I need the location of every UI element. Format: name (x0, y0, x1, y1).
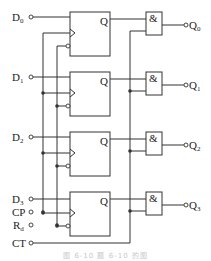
junction-dot (55, 223, 59, 227)
terminal-circle (29, 75, 33, 79)
junction-dot (41, 210, 45, 214)
terminal-circle (29, 197, 33, 201)
terminal-circle (29, 210, 33, 214)
junction-dot (55, 164, 59, 168)
terminal-circle (29, 135, 33, 139)
figure-caption: 图 6-10 题 6-10 的图 (0, 250, 211, 260)
and-symbol-3: & (149, 192, 158, 204)
reset-bubble-icon (66, 104, 70, 108)
junction-dot (128, 149, 132, 153)
terminal-circle (184, 143, 188, 147)
output-label-q1: Q1 (189, 79, 201, 93)
terminal-circle (29, 223, 33, 227)
input-label-cp: CP (12, 206, 25, 218)
reset-bubble-icon (66, 224, 70, 228)
junction-dot (128, 209, 132, 213)
ff-q-label-0: Q (100, 15, 108, 27)
and-symbol-0: & (149, 12, 158, 24)
junction-dot (55, 104, 59, 108)
input-label-ct: CT (12, 237, 26, 249)
ff-q-label-2: Q (100, 135, 108, 147)
junction-dot (41, 91, 45, 95)
circuit-diagram: D0D1D2D3CPRdCTQ&Q0Q&Q1Q&Q2Q&Q3 图 6-10 题 … (0, 0, 211, 261)
junction-dot (128, 89, 132, 93)
input-label-d1: D1 (12, 71, 24, 85)
input-label-d3: D3 (12, 193, 24, 207)
terminal-circle (184, 23, 188, 27)
input-label-rd: Rd (13, 219, 24, 233)
ff-q-label-3: Q (100, 195, 108, 207)
terminal-circle (29, 15, 33, 19)
junction-dot (41, 151, 45, 155)
input-label-d0: D0 (12, 11, 24, 25)
terminal-circle (184, 203, 188, 207)
output-label-q0: Q0 (189, 19, 201, 33)
and-symbol-1: & (149, 72, 158, 84)
reset-bubble-icon (66, 164, 70, 168)
input-label-d2: D2 (12, 131, 24, 145)
ff-q-label-1: Q (100, 75, 108, 87)
terminal-circle (29, 241, 33, 245)
terminal-circle (184, 83, 188, 87)
circuit-schematic: D0D1D2D3CPRdCTQ&Q0Q&Q1Q&Q2Q&Q3 (0, 0, 211, 261)
reset-bubble-icon (66, 44, 70, 48)
and-symbol-2: & (149, 132, 158, 144)
output-label-q2: Q2 (189, 139, 201, 153)
output-label-q3: Q3 (189, 199, 201, 213)
